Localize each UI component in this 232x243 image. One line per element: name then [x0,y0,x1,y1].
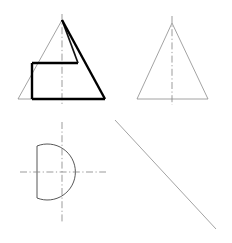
drawing-canvas [0,0,232,243]
technical-drawing-sheet [0,0,232,243]
